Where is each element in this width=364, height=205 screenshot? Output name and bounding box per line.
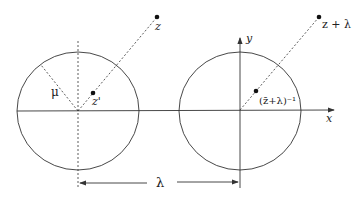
point-z xyxy=(155,15,160,20)
label-inverse: (z̄+λ)⁻¹ xyxy=(259,95,296,106)
point-inverse xyxy=(254,89,259,94)
label-z-plus-lambda: z + λ xyxy=(322,18,351,31)
point-z-plus-lambda xyxy=(317,15,322,20)
label-y-axis: y xyxy=(245,32,253,45)
label-z: z xyxy=(154,20,161,33)
diagram-canvas: μ z z' z + λ (z̄+λ)⁻¹ x y λ xyxy=(0,0,364,205)
right-figure: z + λ (z̄+λ)⁻¹ x y xyxy=(179,15,351,188)
label-x-axis: x xyxy=(326,112,333,125)
horizontal-axis-line xyxy=(17,110,334,111)
label-z-prime: z' xyxy=(91,95,101,108)
label-mu: μ xyxy=(51,85,59,99)
z-ray-dashed xyxy=(78,17,157,111)
lambda-dimension: λ xyxy=(80,175,238,190)
left-figure: μ z z' xyxy=(17,15,161,188)
mu-radius-dashed xyxy=(41,65,78,111)
label-lambda: λ xyxy=(156,175,164,190)
